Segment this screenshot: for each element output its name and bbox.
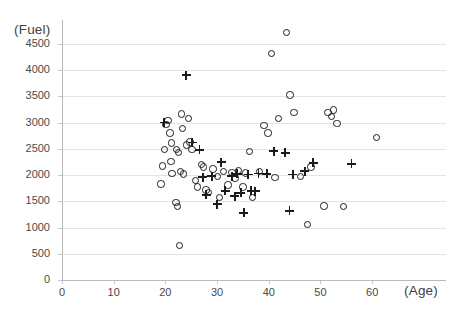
y-tick-label: 4000 xyxy=(10,63,50,75)
data-point-circle xyxy=(340,203,347,210)
data-point-circle xyxy=(178,110,185,117)
data-point-plus xyxy=(195,145,204,154)
y-tick-label: 4500 xyxy=(10,37,50,49)
y-axis-title: (Fuel) xyxy=(14,22,50,37)
gridline xyxy=(62,44,446,45)
data-point-plus xyxy=(239,208,248,217)
data-point-circle xyxy=(168,170,175,177)
data-point-plus xyxy=(309,158,318,167)
y-tick-label: 0 xyxy=(10,273,50,285)
data-point-plus xyxy=(281,148,290,157)
gridline xyxy=(62,123,446,124)
data-point-plus xyxy=(213,200,222,209)
data-point-plus xyxy=(244,170,253,179)
data-point-circle xyxy=(185,115,192,122)
data-point-circle xyxy=(286,91,293,98)
data-point-circle xyxy=(161,146,168,153)
y-tick-label: 1000 xyxy=(10,221,50,233)
gridline xyxy=(62,96,446,97)
data-point-plus xyxy=(251,187,260,196)
data-point-circle xyxy=(320,202,327,209)
x-tick-label: 30 xyxy=(202,286,232,298)
gridline xyxy=(62,149,446,150)
data-point-circle xyxy=(333,120,340,127)
data-point-circle xyxy=(264,129,271,136)
data-point-plus xyxy=(288,170,297,179)
gridline xyxy=(62,201,446,202)
data-point-circle xyxy=(275,115,282,122)
data-point-plus xyxy=(347,159,356,168)
data-point-plus xyxy=(262,169,271,178)
y-tick-label: 1500 xyxy=(10,194,50,206)
data-point-plus xyxy=(217,158,226,167)
y-tick-label: 2000 xyxy=(10,168,50,180)
data-point-plus xyxy=(233,169,242,178)
data-point-circle xyxy=(180,170,187,177)
x-tick-label: 40 xyxy=(254,286,284,298)
data-point-circle xyxy=(179,125,186,132)
data-point-circle xyxy=(271,174,278,181)
data-point-circle xyxy=(268,50,275,57)
gridline xyxy=(62,228,446,229)
gridline xyxy=(62,70,446,71)
x-axis-line xyxy=(62,280,446,281)
data-point-circle xyxy=(167,158,174,165)
data-point-plus xyxy=(182,71,191,80)
data-point-circle xyxy=(283,29,290,36)
y-tick-label: 3500 xyxy=(10,89,50,101)
x-tick-label: 50 xyxy=(305,286,335,298)
data-point-circle xyxy=(260,122,267,129)
data-point-plus xyxy=(198,173,207,182)
data-point-circle xyxy=(373,134,380,141)
data-point-circle xyxy=(166,129,173,136)
data-point-circle xyxy=(175,149,182,156)
y-tick-label: 2500 xyxy=(10,142,50,154)
data-point-circle xyxy=(174,203,181,210)
y-tick-label: 500 xyxy=(10,247,50,259)
data-point-circle xyxy=(176,242,183,249)
data-point-circle xyxy=(157,180,164,187)
data-point-plus xyxy=(207,172,216,181)
data-point-circle xyxy=(290,109,297,116)
data-point-circle xyxy=(328,113,335,120)
data-point-plus xyxy=(160,118,169,127)
y-tick-label: 3000 xyxy=(10,116,50,128)
data-point-plus xyxy=(202,190,211,199)
data-point-circle xyxy=(200,163,207,170)
x-tick-label: 20 xyxy=(150,286,180,298)
data-point-circle xyxy=(304,221,311,228)
gridline xyxy=(62,254,446,255)
scatter-chart: (Fuel) (Age) 050010001500200025003000350… xyxy=(0,0,456,319)
x-tick-label: 10 xyxy=(99,286,129,298)
x-tick-label: 0 xyxy=(47,286,77,298)
x-axis-title: (Age) xyxy=(404,283,438,298)
data-point-circle xyxy=(246,148,253,155)
data-point-plus xyxy=(285,206,294,215)
data-point-circle xyxy=(159,162,166,169)
data-point-plus xyxy=(221,186,230,195)
data-point-plus xyxy=(300,167,309,176)
x-tick-label: 60 xyxy=(357,286,387,298)
data-point-plus xyxy=(236,188,245,197)
data-point-circle xyxy=(330,106,337,113)
data-point-circle xyxy=(194,183,201,190)
data-point-plus xyxy=(269,147,278,156)
y-axis-line xyxy=(62,20,63,280)
